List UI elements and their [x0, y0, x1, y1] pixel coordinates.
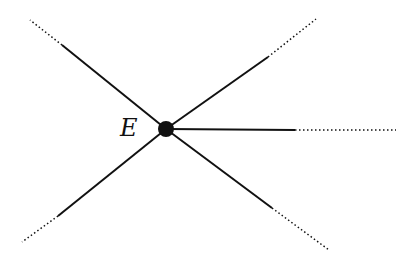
edge-lower-left-solid [58, 129, 166, 216]
edge-upper-left-solid [62, 45, 166, 129]
edge-upper-right-dotted [268, 19, 316, 57]
edge-lower-right-dotted [272, 208, 329, 250]
edge-right-solid [166, 129, 295, 130]
graph-diagram [0, 0, 416, 258]
edge-upper-right-solid [166, 57, 268, 129]
vertex-dot [158, 121, 174, 137]
edge-upper-left-dotted [30, 20, 62, 45]
edge-lower-left-dotted [22, 216, 58, 242]
edge-lower-right-solid [166, 129, 272, 208]
vertex-label: E [120, 114, 138, 142]
